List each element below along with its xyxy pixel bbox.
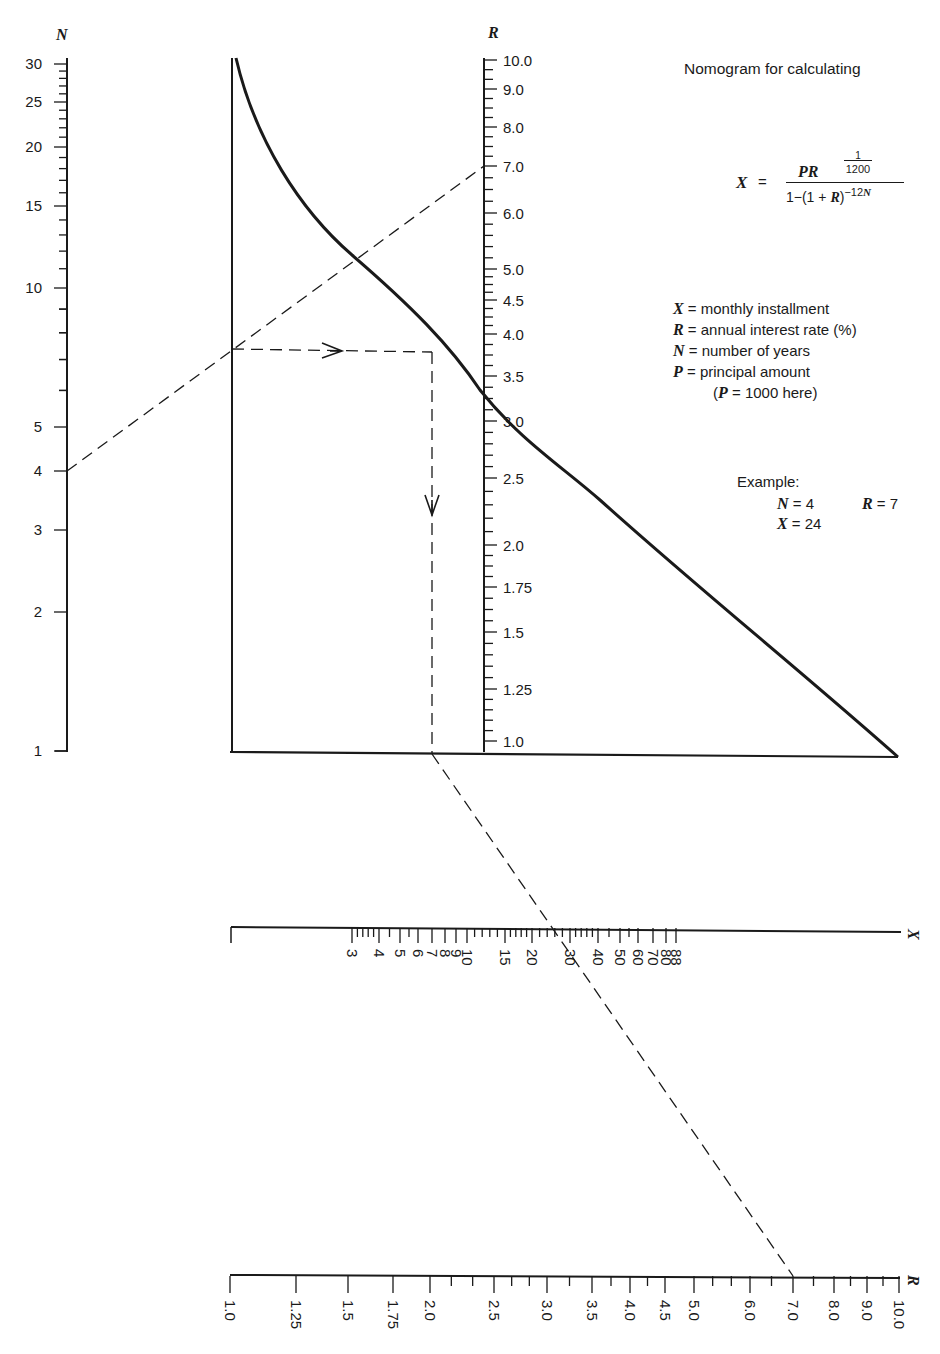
formula-lhs: X xyxy=(736,173,747,193)
example-n-var: N xyxy=(777,495,789,512)
arrow-right-icon xyxy=(322,343,342,358)
example-r-value: = 7 xyxy=(877,495,898,512)
legend-note-var: P xyxy=(718,384,728,401)
formula-fraction-bottom: 1200 xyxy=(844,163,872,175)
n-axis-tick-label: 5 xyxy=(34,418,42,435)
legend-note-text: = 1000 here) xyxy=(728,384,818,401)
r-axis-horizontal-tick-label: 9.0 xyxy=(859,1300,876,1321)
r-axis-horizontal-tick-labels: 1.01.251.51.752.02.53.03.54.04.55.06.07.… xyxy=(222,1300,908,1329)
r-axis-tick-label: 2.5 xyxy=(503,470,524,487)
x-axis-tick-label: 50 xyxy=(612,949,629,966)
formula-exponent-var: N xyxy=(863,186,871,198)
x-axis-tick-label: 3 xyxy=(344,949,361,957)
x-axis-label: X xyxy=(905,928,922,940)
formula-numerator: PR xyxy=(798,163,818,181)
n-axis-tick-label: 30 xyxy=(25,55,42,72)
r-axis-horizontal-tick-label: 5.0 xyxy=(686,1300,703,1321)
r-axis-horizontal-tick-label: 1.5 xyxy=(340,1300,357,1321)
example-x-value: = 24 xyxy=(792,515,822,532)
r-axis-tick-label: 7.0 xyxy=(503,158,524,175)
x-axis-tick-label: 10 xyxy=(459,949,476,966)
example-n: N = 4 xyxy=(777,493,814,514)
arrow-down-icon xyxy=(425,495,439,515)
r-axis-horizontal-tick-label: 8.0 xyxy=(826,1300,843,1321)
example-n-value: = 4 xyxy=(793,495,814,512)
formula-denominator-prefix: 1−(1 + xyxy=(786,189,830,205)
variable-legend: X = monthly installment R = annual inter… xyxy=(673,298,857,403)
r-axis-horizontal-tick-label: 3.5 xyxy=(584,1300,601,1321)
r-axis-horizontal xyxy=(230,1275,900,1293)
formula-fraction-bar xyxy=(844,160,872,161)
page-title: Nomogram for calculating xyxy=(684,60,861,78)
legend-text: = principal amount xyxy=(687,363,810,380)
example-r: R = 7 xyxy=(862,493,898,514)
r-axis-horizontal-tick-label: 1.25 xyxy=(288,1300,305,1329)
r-axis-horizontal-tick-label: 4.5 xyxy=(657,1300,674,1321)
example-label: Example: xyxy=(737,473,800,490)
example-x-var: X xyxy=(777,515,788,532)
legend-text: = number of years xyxy=(689,342,810,359)
legend-item-n: N = number of years xyxy=(673,340,857,361)
x-axis-tick-label: 20 xyxy=(524,949,541,966)
r-axis-tick-label: 6.0 xyxy=(503,205,524,222)
r-axis-horizontal-tick-label: 7.0 xyxy=(785,1300,802,1321)
x-axis-tick-label: 88 xyxy=(668,949,685,966)
r-axis-tick-label: 2.0 xyxy=(503,537,524,554)
r-axis-tick-label: 8.0 xyxy=(503,119,524,136)
formula-denominator-var: R xyxy=(830,190,839,205)
r-axis-tick-label: 4.5 xyxy=(503,292,524,309)
n-axis-tick-label: 20 xyxy=(25,138,42,155)
formula-denominator: 1−(1 + R)−12N xyxy=(786,186,871,206)
r-axis-vertical-label: R xyxy=(487,24,499,41)
r-axis-horizontal-tick-label: 1.0 xyxy=(222,1300,239,1321)
example-x: X = 24 xyxy=(777,513,821,534)
legend-text: = annual interest rate (%) xyxy=(688,321,857,338)
legend-var: N xyxy=(673,342,685,359)
legend-var: X xyxy=(673,300,684,317)
r-axis-tick-label: 10.0 xyxy=(503,52,532,69)
x-axis-tick-label: 60 xyxy=(630,949,647,966)
formula-equals: = xyxy=(758,173,767,190)
n-axis-tick-label: 3 xyxy=(34,521,42,538)
x-axis-tick-label: 15 xyxy=(497,949,514,966)
n-axis-tick-label: 15 xyxy=(25,197,42,214)
legend-text: = monthly installment xyxy=(688,300,829,317)
legend-var: R xyxy=(673,321,684,338)
r-axis-horizontal-tick-label: 2.5 xyxy=(486,1300,503,1321)
r-axis-tick-label: 1.25 xyxy=(503,681,532,698)
formula-exponent: −12 xyxy=(844,186,863,198)
example-r-var: R xyxy=(862,495,873,512)
x-axis-tick-label: 4 xyxy=(371,949,388,957)
n-axis xyxy=(54,58,67,752)
n-axis-tick-label: 4 xyxy=(34,462,42,479)
r-axis-horizontal-tick-label: 1.75 xyxy=(385,1300,402,1329)
r-axis-tick-label: 5.0 xyxy=(503,261,524,278)
r-axis-vertical xyxy=(484,58,497,752)
r-axis-tick-label: 1.75 xyxy=(503,579,532,596)
n-axis-tick-label: 1 xyxy=(34,742,42,759)
n-axis-tick-label: 2 xyxy=(34,603,42,620)
x-axis xyxy=(231,927,901,943)
r-axis-tick-label: 9.0 xyxy=(503,81,524,98)
r-axis-horizontal-tick-label: 10.0 xyxy=(891,1300,908,1329)
r-axis-tick-label: 1.0 xyxy=(503,733,524,750)
legend-item-x: X = monthly installment xyxy=(673,298,857,319)
formula-main-bar xyxy=(786,182,904,183)
n-axis-label: N xyxy=(55,26,69,43)
chart-baseline xyxy=(230,752,898,757)
example-line-to-r-scale xyxy=(432,754,793,1276)
r-axis-horizontal-tick-label: 4.0 xyxy=(622,1300,639,1321)
x-axis-tick-labels: 345678910152030405060708088 xyxy=(344,949,685,966)
legend-var: P xyxy=(673,363,683,380)
r-axis-horizontal-tick-label: 6.0 xyxy=(742,1300,759,1321)
r-axis-horizontal-tick-label: 3.0 xyxy=(539,1300,556,1321)
r-axis-tick-label: 1.5 xyxy=(503,624,524,641)
legend-item-r: R = annual interest rate (%) xyxy=(673,319,857,340)
n-axis-tick-label: 10 xyxy=(25,279,42,296)
r-axis-vertical-tick-labels: 10.09.08.07.06.05.04.54.03.53.02.52.01.7… xyxy=(503,52,532,750)
r-axis-horizontal-tick-label: 2.0 xyxy=(422,1300,439,1321)
x-axis-tick-label: 40 xyxy=(590,949,607,966)
x-axis-tick-label: 5 xyxy=(392,949,409,957)
n-axis-tick-label: 25 xyxy=(25,93,42,110)
legend-note: (P = 1000 here) xyxy=(673,382,857,403)
